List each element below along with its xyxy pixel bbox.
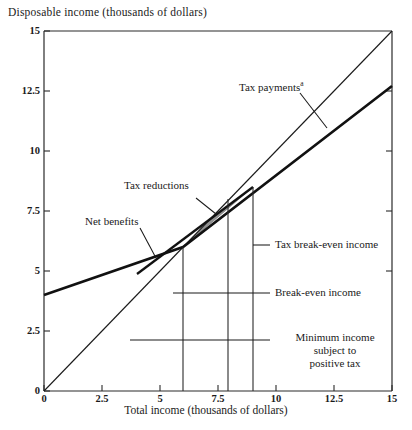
x-tick-label-10: 10 xyxy=(256,393,296,404)
annotation-tax-payments-superscript: a xyxy=(300,79,303,88)
leader-net-benefits xyxy=(140,228,156,258)
y-tick-label-12.5: 12.5 xyxy=(0,85,40,96)
y-tick-label-2.5: 2.5 xyxy=(0,325,40,336)
y-tick-label-7.5: 7.5 xyxy=(0,205,40,216)
alternative-tax-schedule-line xyxy=(137,187,253,274)
annotation-tax-reductions: Tax reductions xyxy=(124,179,189,192)
annotation-minimum-income-line-1: Minimum income xyxy=(275,331,395,344)
net-benefits-schedule-line xyxy=(44,86,392,295)
x-tick-label-12.5: 12.5 xyxy=(314,393,354,404)
y-tick-label-15: 15 xyxy=(0,25,40,36)
annotation-minimum-income-subject-to-positive-tax: Minimum income subject to positive tax xyxy=(275,331,395,370)
vertical-marker-lines xyxy=(183,187,253,391)
y-axis-ticks-right xyxy=(386,91,392,271)
x-tick-label-0: 0 xyxy=(24,393,64,404)
x-tick-label-7.5: 7.5 xyxy=(198,393,238,404)
x-tick-label-5: 5 xyxy=(140,393,180,404)
annotation-tax-payments-label: Tax payments xyxy=(239,81,300,93)
annotation-minimum-income-line-3: positive tax xyxy=(275,357,395,370)
x-axis-ticks xyxy=(44,385,392,391)
y-tick-label-10: 10 xyxy=(0,145,40,156)
annotation-minimum-income-line-2: subject to xyxy=(275,344,395,357)
annotation-tax-payments: Tax paymentsa xyxy=(239,80,304,94)
annotation-net-benefits: Net benefits xyxy=(85,215,138,228)
chart-figure: Disposable income (thousands of dollars) xyxy=(0,0,412,430)
annotation-break-even-income: Break-even income xyxy=(275,286,361,299)
annotation-tax-break-even-income: Tax break-even income xyxy=(275,238,378,251)
x-axis-title: Total income (thousands of dollars) xyxy=(0,404,412,416)
y-tick-label-5: 5 xyxy=(0,265,40,276)
leader-tax-reductions xyxy=(196,198,216,214)
y-axis-ticks xyxy=(44,31,50,391)
x-tick-label-15: 15 xyxy=(372,393,412,404)
x-tick-label-2.5: 2.5 xyxy=(82,393,122,404)
